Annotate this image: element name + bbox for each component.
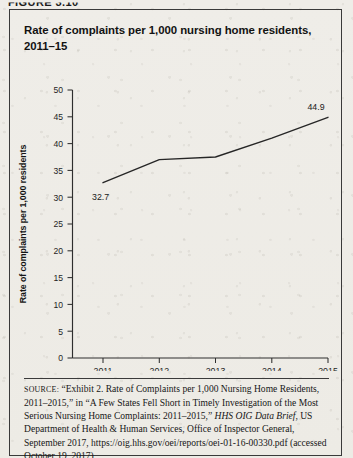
y-tick-label: 25 <box>53 219 63 229</box>
y-tick-label: 5 <box>58 327 63 337</box>
source-divider <box>24 378 329 379</box>
y-axis-label: Rate of complaints per 1,000 residents <box>18 145 28 304</box>
figure-title: Rate of complaints per 1,000 nursing hom… <box>24 22 324 54</box>
x-tick-marks <box>103 358 328 363</box>
x-tick-label: 2011 <box>94 366 113 371</box>
y-tick-label: 40 <box>53 139 63 149</box>
y-tick-label: 0 <box>58 353 63 363</box>
figure-label: FIGURE 3.10 <box>8 0 78 8</box>
data-label-first: 32.7 <box>92 192 109 202</box>
data-series-line <box>103 117 328 182</box>
y-tick-labels: 50 45 40 35 30 25 20 15 10 5 0 <box>53 85 63 363</box>
x-tick-label: 2014 <box>262 366 282 371</box>
source-prefix: SOURCE: <box>24 385 59 394</box>
x-tick-label: 2013 <box>206 366 226 371</box>
x-tick-label: 2012 <box>150 366 170 371</box>
x-tick-labels: 2011 2012 2013 2014 2015 <box>94 366 338 371</box>
source-publication-title: HHS OIG Data Brief <box>215 410 296 421</box>
y-tick-label: 45 <box>53 112 63 122</box>
y-tick-label: 50 <box>53 85 63 95</box>
y-tick-label: 20 <box>53 246 63 256</box>
y-tick-label: 15 <box>53 273 63 283</box>
x-tick-label: 2015 <box>318 366 338 371</box>
figure-box: Rate of complaints per 1,000 nursing hom… <box>9 9 342 456</box>
line-chart: 50 45 40 35 30 25 20 15 10 5 0 Rate of c… <box>10 66 343 371</box>
y-tick-label: 30 <box>53 193 63 203</box>
y-tick-marks <box>68 90 73 358</box>
source-note: SOURCE: “Exhibit 2. Rate of Complaints p… <box>24 382 332 458</box>
data-label-last: 44.9 <box>307 102 324 112</box>
y-tick-label: 10 <box>53 300 63 310</box>
y-tick-label: 35 <box>53 166 63 176</box>
